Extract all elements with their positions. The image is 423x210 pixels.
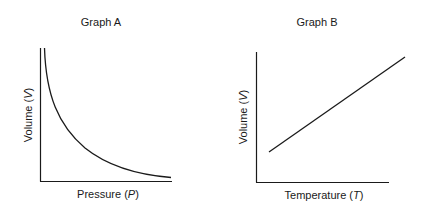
figure: Graph A Pressure (P) Volume (V) Graph B … <box>0 0 423 210</box>
graph-a-title: Graph A <box>81 16 122 28</box>
graph-b-line <box>269 57 405 152</box>
graph-b-y-label: Volume (V) <box>237 90 249 144</box>
graph-a-x-label: Pressure (P) <box>77 188 139 200</box>
graph-a-curve <box>45 48 172 178</box>
graph-a: Graph A Pressure (P) Volume (V) <box>22 16 172 200</box>
graph-a-y-label: Volume (V) <box>22 88 34 142</box>
graph-b-title: Graph B <box>297 16 338 28</box>
graph-b-x-label: Temperature (T) <box>285 189 364 201</box>
graph-b: Graph B Temperature (T) Volume (V) <box>237 16 405 201</box>
